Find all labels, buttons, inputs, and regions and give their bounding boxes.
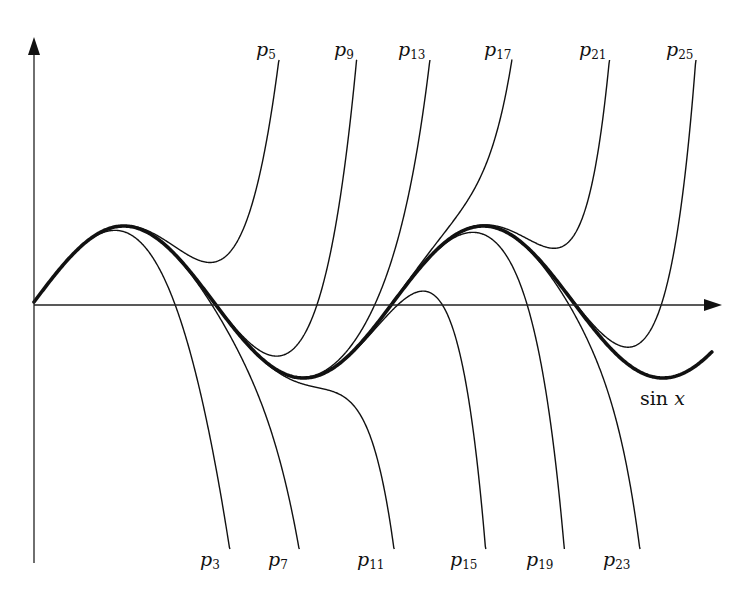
label-subscript: 17 <box>496 48 511 62</box>
y-axis-arrow-icon <box>28 37 40 55</box>
label-p15: p15 <box>450 550 477 571</box>
label-subscript: 7 <box>280 558 288 572</box>
label-name: p <box>579 38 591 60</box>
sin-x-label: sin x <box>640 389 685 408</box>
label-subscript: 3 <box>212 558 220 572</box>
label-p7: p7 <box>268 550 288 571</box>
curve-p5 <box>34 60 279 302</box>
label-subscript: 19 <box>538 558 553 572</box>
label-name: p <box>603 548 615 570</box>
label-name: p <box>526 548 538 570</box>
x-axis-arrow-icon <box>704 299 722 311</box>
label-name: p <box>398 38 410 60</box>
label-name: p <box>484 38 496 60</box>
label-p3: p3 <box>200 550 220 571</box>
label-name: p <box>666 38 678 60</box>
curve-p23 <box>34 226 640 549</box>
label-name: p <box>357 548 369 570</box>
label-subscript: 11 <box>369 558 384 572</box>
curve-p11 <box>34 226 394 549</box>
label-p21: p21 <box>579 40 606 61</box>
sin-var: x <box>674 387 685 409</box>
label-subscript: 13 <box>410 48 425 62</box>
label-name: p <box>200 548 212 570</box>
label-p13: p13 <box>398 40 425 61</box>
label-name: p <box>256 38 268 60</box>
curve-p3 <box>34 230 230 549</box>
label-name: p <box>450 548 462 570</box>
curve-p15 <box>34 226 486 549</box>
label-subscript: 15 <box>462 558 477 572</box>
label-p17: p17 <box>484 40 511 61</box>
curve-p7 <box>34 226 299 549</box>
label-subscript: 9 <box>346 48 354 62</box>
curve-p19 <box>34 226 564 549</box>
label-subscript: 23 <box>615 558 630 572</box>
label-p23: p23 <box>603 550 630 571</box>
sin-curve <box>34 226 712 378</box>
curve-p9 <box>34 60 357 356</box>
label-p5: p5 <box>256 40 276 61</box>
label-p9: p9 <box>334 40 354 61</box>
label-subscript: 5 <box>268 48 276 62</box>
taylor-diagram <box>0 0 743 589</box>
sin-fn: sin <box>640 387 668 409</box>
label-name: p <box>268 548 280 570</box>
curve-p17 <box>34 60 512 378</box>
label-p11: p11 <box>357 550 384 571</box>
label-subscript: 25 <box>678 48 693 62</box>
label-name: p <box>334 38 346 60</box>
label-p25: p25 <box>666 40 693 61</box>
curve-p21 <box>34 60 610 378</box>
label-p19: p19 <box>526 550 553 571</box>
label-subscript: 21 <box>591 48 606 62</box>
